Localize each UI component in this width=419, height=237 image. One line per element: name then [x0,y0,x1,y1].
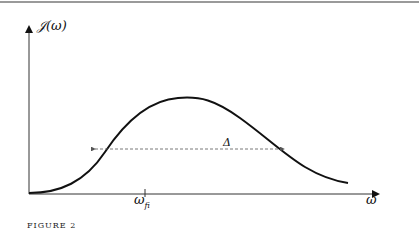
width-label-delta: Δ [223,136,231,149]
x-axis-label: ω [366,192,377,207]
figure-caption: FIGURE 2 [27,221,76,230]
tick-label-omega-fi: ωfi [134,192,150,210]
spectral-plot [0,0,419,237]
tick-label-sub: fi [145,201,150,210]
y-axis-label: 𝒥(ω) [37,18,67,34]
tick-label-main: ω [134,192,145,207]
spectral-curve [29,98,348,193]
